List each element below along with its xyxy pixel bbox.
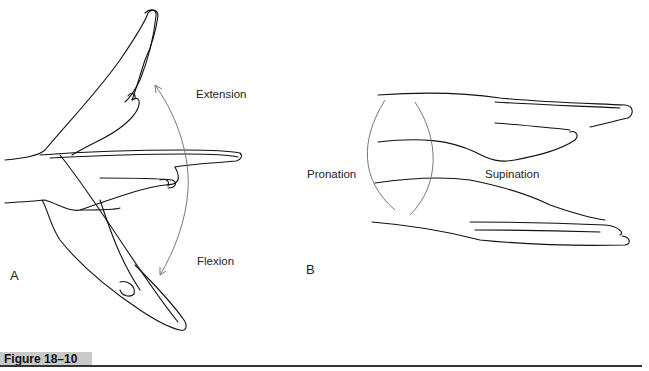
label-supination: Supination [485, 168, 539, 180]
panel-label-b: B [306, 262, 315, 277]
label-extension: Extension [196, 88, 247, 100]
label-pronation: Pronation [307, 168, 356, 180]
figure-caption-label: Figure 18–10 [4, 352, 77, 366]
figure-caption-bar: Figure 18–10 [0, 352, 92, 366]
label-flexion: Flexion [197, 255, 234, 267]
panel-label-a: A [10, 268, 19, 283]
hand-drawing-a [5, 10, 241, 331]
caption-rule [0, 365, 642, 367]
motion-arcs-b [367, 100, 433, 215]
